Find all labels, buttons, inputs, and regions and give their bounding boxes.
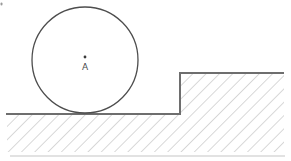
geometry-diagram: A <box>0 0 291 161</box>
figure-canvas: A <box>0 0 291 161</box>
center-point <box>84 56 87 59</box>
hatched-ground-region <box>7 74 284 153</box>
center-point-label: A <box>82 62 89 72</box>
circle-body <box>32 7 138 113</box>
stray-mark <box>1 3 3 6</box>
